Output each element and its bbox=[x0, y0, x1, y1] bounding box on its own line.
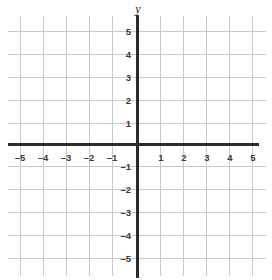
y-axis-label: y bbox=[134, 2, 141, 16]
x-tick-label: 3 bbox=[204, 152, 209, 163]
x-tick-label: 2 bbox=[181, 152, 186, 163]
y-tick-label: –4 bbox=[120, 230, 131, 241]
y-tick-label: –3 bbox=[120, 207, 131, 218]
y-tick-label: 3 bbox=[126, 72, 131, 83]
x-tick-label: 4 bbox=[227, 152, 233, 163]
x-tick-label: –4 bbox=[38, 152, 49, 163]
y-tick-label: –5 bbox=[120, 253, 131, 264]
x-tick-label: 5 bbox=[250, 152, 256, 163]
y-tick-label: 1 bbox=[126, 118, 132, 129]
y-tick-label: –2 bbox=[120, 184, 131, 195]
y-tick-label: –1 bbox=[120, 161, 131, 172]
x-tick-label: –2 bbox=[84, 152, 95, 163]
y-tick-label: 2 bbox=[126, 95, 131, 106]
graph-canvas: –5 –4 –3 –2 –1 1 2 3 4 5 5 4 3 2 1 –1 –2… bbox=[0, 0, 272, 280]
coordinate-plane-graph: –5 –4 –3 –2 –1 1 2 3 4 5 5 4 3 2 1 –1 –2… bbox=[0, 0, 272, 280]
x-tick-label: 1 bbox=[158, 152, 164, 163]
y-tick-label: 5 bbox=[126, 26, 132, 37]
x-tick-label: –1 bbox=[107, 152, 118, 163]
x-tick-label: –3 bbox=[61, 152, 72, 163]
x-tick-label: –5 bbox=[15, 152, 26, 163]
y-tick-label: 4 bbox=[126, 49, 132, 60]
